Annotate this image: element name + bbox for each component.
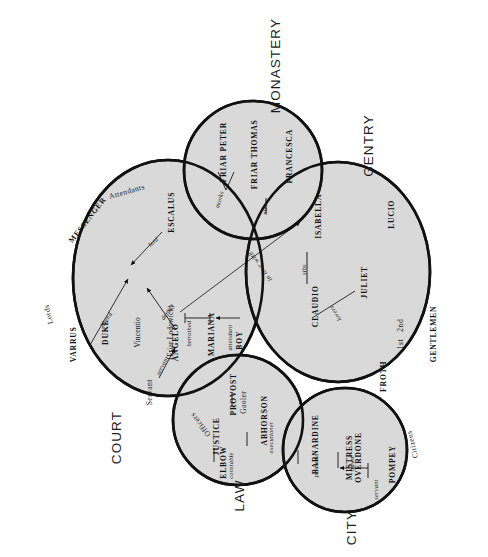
diagram-canvas: COURT MONASTERY GENTRY LAW CITY MESSENGE… [0,0,488,557]
venn-diagram-svg [0,0,488,557]
set-shapes [73,101,430,512]
